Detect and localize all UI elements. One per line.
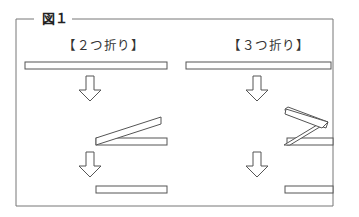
paper-folding-two-fold bbox=[96, 117, 167, 145]
figure-title: 図１ bbox=[38, 11, 72, 27]
paper-unfolded-left bbox=[25, 62, 167, 69]
down-arrow-icon bbox=[79, 152, 101, 177]
paper-folded-two-fold bbox=[96, 186, 167, 193]
figure-diagram bbox=[0, 0, 359, 217]
paper-folding-three-fold bbox=[284, 107, 333, 145]
down-arrow-icon bbox=[246, 76, 268, 101]
paper-folded-three-fold bbox=[285, 186, 333, 193]
down-arrow-icon bbox=[79, 76, 101, 101]
down-arrow-icon bbox=[246, 152, 268, 177]
panel-label-two-fold: 【２つ折り】 bbox=[63, 38, 144, 54]
paper-unfolded-right bbox=[186, 62, 331, 69]
panel-label-three-fold: 【３つ折り】 bbox=[228, 38, 309, 54]
